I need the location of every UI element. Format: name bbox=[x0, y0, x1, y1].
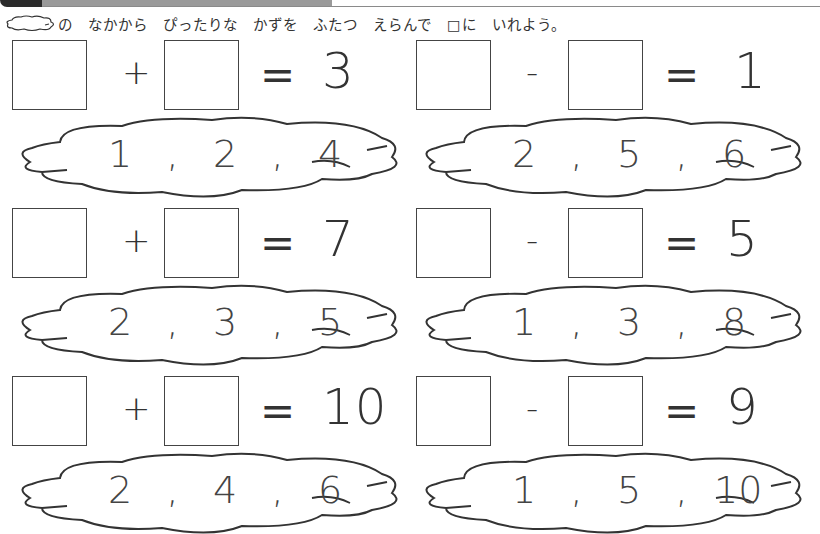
answer-box-2[interactable] bbox=[568, 40, 643, 110]
separator: , bbox=[544, 132, 609, 176]
choice[interactable]: 8 bbox=[714, 300, 754, 344]
answer-box-1[interactable] bbox=[12, 40, 87, 110]
header-rule bbox=[42, 6, 820, 7]
choice[interactable]: 1 bbox=[504, 300, 544, 344]
choice[interactable]: 2 bbox=[100, 468, 140, 512]
result: 1 bbox=[734, 42, 767, 100]
choices-cloud: 2 , 3 , 5 bbox=[12, 280, 412, 366]
result: 9 bbox=[726, 378, 759, 436]
equals-sign: = bbox=[664, 218, 699, 267]
choice[interactable]: 2 bbox=[205, 132, 245, 176]
problem-6: - = 9 1 , 5 , 10 bbox=[416, 376, 816, 526]
choices: 2 , 4 , 6 bbox=[100, 468, 350, 512]
equals-sign: = bbox=[664, 386, 699, 435]
result: 7 bbox=[322, 210, 355, 268]
choice[interactable]: 6 bbox=[714, 132, 754, 176]
answer-box-1[interactable] bbox=[416, 40, 491, 110]
choices-cloud: 1 , 3 , 8 bbox=[416, 280, 816, 366]
separator: , bbox=[649, 468, 714, 512]
choice[interactable]: 3 bbox=[205, 300, 245, 344]
separator: , bbox=[245, 468, 310, 512]
choice[interactable]: 5 bbox=[609, 132, 649, 176]
answer-box-2[interactable] bbox=[568, 376, 643, 446]
operator: - bbox=[526, 52, 538, 92]
answer-box-2[interactable] bbox=[164, 40, 239, 110]
answer-box-2[interactable] bbox=[164, 208, 239, 278]
problem-1: + = 3 1 , 2 , 4 bbox=[12, 40, 412, 190]
operator: - bbox=[526, 220, 538, 260]
separator: , bbox=[649, 300, 714, 344]
choices-cloud: 2 , 5 , 6 bbox=[416, 112, 816, 198]
choice[interactable]: 10 bbox=[714, 468, 754, 512]
equals-sign: = bbox=[260, 50, 295, 99]
separator: , bbox=[245, 300, 310, 344]
choices-cloud: 2 , 4 , 6 bbox=[12, 448, 412, 534]
choice[interactable]: 2 bbox=[504, 132, 544, 176]
problem-5: + = 10 2 , 4 , 6 bbox=[12, 376, 412, 526]
choice[interactable]: 1 bbox=[504, 468, 544, 512]
choices-cloud: 1 , 2 , 4 bbox=[12, 112, 412, 198]
cloud-icon bbox=[4, 14, 56, 32]
result: 10 bbox=[322, 378, 388, 436]
equals-sign: = bbox=[664, 50, 699, 99]
choices: 2 , 3 , 5 bbox=[100, 300, 350, 344]
operator: - bbox=[526, 388, 538, 428]
choice[interactable]: 1 bbox=[100, 132, 140, 176]
choice[interactable]: 5 bbox=[609, 468, 649, 512]
operator: + bbox=[122, 52, 151, 92]
choices-cloud: 1 , 5 , 10 bbox=[416, 448, 816, 534]
instruction: の なかから ぴったりな かずを ふたつ えらんで □に いれよう。 bbox=[4, 11, 566, 35]
choice[interactable]: 4 bbox=[205, 468, 245, 512]
operator: + bbox=[122, 220, 151, 260]
choices: 1 , 3 , 8 bbox=[504, 300, 754, 344]
result: 5 bbox=[726, 210, 759, 268]
header-bar bbox=[0, 0, 820, 7]
separator: , bbox=[245, 132, 310, 176]
answer-box-2[interactable] bbox=[164, 376, 239, 446]
equals-sign: = bbox=[260, 386, 295, 435]
answer-box-2[interactable] bbox=[568, 208, 643, 278]
separator: , bbox=[544, 468, 609, 512]
equals-sign: = bbox=[260, 218, 295, 267]
answer-box-1[interactable] bbox=[12, 208, 87, 278]
choices: 2 , 5 , 6 bbox=[504, 132, 754, 176]
instruction-text: の なかから ぴったりな かずを ふたつ えらんで □に いれよう。 bbox=[58, 13, 566, 34]
choices: 1 , 5 , 10 bbox=[504, 468, 754, 512]
operator: + bbox=[122, 388, 151, 428]
answer-box-1[interactable] bbox=[416, 208, 491, 278]
choice[interactable]: 4 bbox=[310, 132, 350, 176]
answer-box-1[interactable] bbox=[12, 376, 87, 446]
result: 3 bbox=[322, 42, 355, 100]
separator: , bbox=[140, 300, 205, 344]
answer-box-1[interactable] bbox=[416, 376, 491, 446]
choice[interactable]: 6 bbox=[310, 468, 350, 512]
choices: 1 , 2 , 4 bbox=[100, 132, 350, 176]
problem-2: - = 1 2 , 5 , 6 bbox=[416, 40, 816, 190]
separator: , bbox=[649, 132, 714, 176]
separator: , bbox=[140, 468, 205, 512]
choice[interactable]: 2 bbox=[100, 300, 140, 344]
choice[interactable]: 3 bbox=[609, 300, 649, 344]
problem-3: + = 7 2 , 3 , 5 bbox=[12, 208, 412, 358]
separator: , bbox=[140, 132, 205, 176]
problem-4: - = 5 1 , 3 , 8 bbox=[416, 208, 816, 358]
separator: , bbox=[544, 300, 609, 344]
choice[interactable]: 5 bbox=[310, 300, 350, 344]
